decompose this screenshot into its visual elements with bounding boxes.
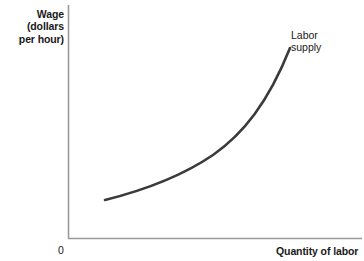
labor-supply-curve <box>105 48 290 200</box>
y-axis-label: Wage (dollars per hour) <box>0 8 64 45</box>
origin-label: 0 <box>58 244 64 256</box>
x-axis-label: Quantity of labor <box>276 245 358 257</box>
labor-supply-chart: Wage (dollars per hour) Quantity of labo… <box>0 0 364 261</box>
labor-supply-curve-label: Labor supply <box>291 29 321 54</box>
